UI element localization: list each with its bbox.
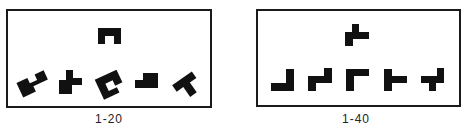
- panel-1-40-option-4: [384, 69, 408, 91]
- panel-1-40-option-2: [308, 68, 332, 91]
- panel-1-40-option-5: [421, 68, 445, 91]
- panel-1-20-target-shape: [98, 28, 122, 46]
- panel-1-20-option-5: [172, 71, 200, 97]
- panel-1-40-label: 1-40: [316, 112, 396, 126]
- panel-1-20-label: 1-20: [69, 112, 149, 126]
- panel-1-20-option-1: [16, 72, 50, 94]
- panel-1-40-option-3: [346, 69, 370, 91]
- panel-1-40-option-1: [271, 69, 295, 91]
- panel-1-20-option-3: [94, 68, 124, 96]
- panel-1-20-option-2: [59, 70, 83, 94]
- panel-1-20-option-4: [135, 73, 159, 89]
- panel-1-40-target-shape: [345, 24, 369, 46]
